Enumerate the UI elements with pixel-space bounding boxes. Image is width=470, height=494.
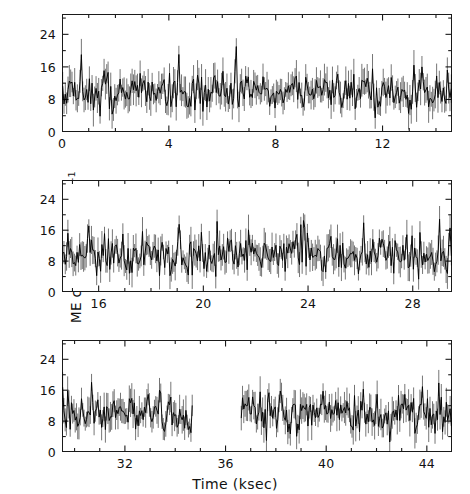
y-tick-label: 16	[40, 59, 56, 74]
x-axis-label: Time (ksec)	[0, 476, 470, 492]
x-tick-label: 20	[195, 296, 211, 311]
panel-2-y-tick-labels: 081624	[30, 180, 56, 292]
panel-2-x-tick-labels: 16202428	[62, 296, 452, 314]
panel-1-ticks	[62, 14, 452, 132]
x-tick-label: 0	[58, 136, 66, 151]
y-tick-label: 16	[40, 383, 56, 398]
x-tick-label: 44	[419, 456, 435, 471]
panel-3-data-line	[63, 382, 452, 442]
y-tick-label: 24	[40, 27, 56, 42]
panel-1-x-tick-labels: 04812	[62, 136, 452, 154]
panel-1-plot	[62, 14, 452, 132]
light-curve-figure: ME counts sec-1 half-1 Time (ksec) 08162…	[0, 0, 470, 494]
panel-3	[62, 340, 452, 452]
y-tick-label: 0	[48, 285, 56, 300]
x-tick-label: 36	[217, 456, 233, 471]
x-tick-label: 24	[300, 296, 316, 311]
panel-3-plot	[62, 340, 452, 452]
panel-3-y-tick-labels: 081624	[30, 340, 56, 452]
panel-2-data-line	[63, 219, 452, 279]
panel-2-plot	[62, 180, 452, 292]
panel-1-y-tick-labels: 081624	[30, 14, 56, 132]
panel-1	[62, 14, 452, 132]
panel-2-error-bars	[63, 206, 452, 290]
x-tick-label: 16	[90, 296, 106, 311]
panel-1-data-line	[63, 47, 452, 118]
y-tick-label: 8	[48, 92, 56, 107]
y-tick-label: 24	[40, 192, 56, 207]
x-tick-label: 8	[272, 136, 280, 151]
panel-3-x-tick-labels: 32364044	[62, 456, 452, 474]
y-tick-label: 0	[48, 445, 56, 460]
x-tick-label: 12	[374, 136, 390, 151]
y-tick-label: 0	[48, 125, 56, 140]
x-tick-label: 40	[318, 456, 334, 471]
y-tick-label: 8	[48, 254, 56, 269]
x-tick-label: 4	[165, 136, 173, 151]
x-tick-label: 32	[117, 456, 133, 471]
x-tick-label: 28	[405, 296, 421, 311]
panel-2	[62, 180, 452, 292]
y-tick-label: 24	[40, 352, 56, 367]
y-tick-label: 16	[40, 223, 56, 238]
y-tick-label: 8	[48, 414, 56, 429]
